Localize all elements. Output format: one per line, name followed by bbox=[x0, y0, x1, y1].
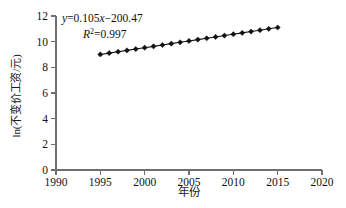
x-tick-label: 2000 bbox=[133, 176, 156, 188]
data-point bbox=[248, 29, 253, 34]
data-point bbox=[160, 42, 165, 47]
data-point bbox=[178, 40, 183, 45]
data-point bbox=[195, 37, 200, 42]
data-point bbox=[151, 44, 156, 49]
x-tick-label: 1995 bbox=[89, 176, 112, 188]
x-axis-ticks bbox=[56, 170, 322, 175]
data-point bbox=[169, 41, 174, 46]
y-tick-label: 2 bbox=[42, 138, 48, 150]
data-point bbox=[133, 46, 138, 51]
x-tick-label: 2015 bbox=[266, 176, 289, 188]
y-tick-label: 8 bbox=[42, 61, 48, 73]
y-tick-label: 12 bbox=[37, 10, 49, 22]
y-tick-label: 10 bbox=[37, 36, 49, 48]
plot-area: 0 2 4 6 8 10 12 1990 1995 2000 2005 2010… bbox=[0, 0, 346, 208]
data-point bbox=[240, 30, 245, 35]
y-tick-label: 4 bbox=[42, 113, 48, 125]
regression-equation-label: y=0.105x−200.47 bbox=[61, 12, 143, 25]
x-tick-label: 2020 bbox=[311, 176, 334, 188]
data-point bbox=[124, 48, 129, 53]
r-squared-value: =0.997 bbox=[94, 28, 127, 40]
data-point bbox=[98, 52, 103, 57]
equation-intercept-text: −200.47 bbox=[105, 12, 143, 24]
data-point bbox=[231, 32, 236, 37]
y-tick-label: 0 bbox=[42, 164, 48, 176]
data-point bbox=[266, 26, 271, 31]
data-point bbox=[275, 25, 280, 30]
data-point bbox=[213, 34, 218, 39]
x-tick-label: 2010 bbox=[222, 176, 245, 188]
x-tick-label: 1990 bbox=[45, 176, 68, 188]
data-point bbox=[257, 28, 262, 33]
y-tick-label: 6 bbox=[42, 87, 48, 99]
y-axis-ticks bbox=[51, 16, 56, 170]
data-point bbox=[115, 49, 120, 54]
equation-slope-text: =0.105 bbox=[67, 12, 100, 24]
chart-container: ln(不变价工资/元) 年份 0 2 4 6 8 10 12 bbox=[0, 0, 346, 208]
r-squared-symbol: R bbox=[82, 28, 90, 40]
x-tick-label: 2005 bbox=[178, 176, 201, 188]
data-point bbox=[222, 33, 227, 38]
r-squared-label: R2=0.997 bbox=[82, 27, 127, 40]
data-point bbox=[107, 50, 112, 55]
data-point bbox=[204, 36, 209, 41]
data-point bbox=[142, 45, 147, 50]
data-point bbox=[186, 38, 191, 43]
